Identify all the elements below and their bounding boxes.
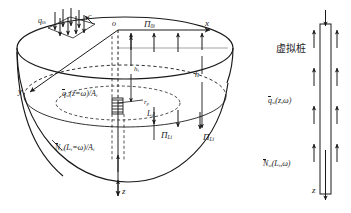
L-i-label: Li bbox=[147, 110, 153, 119]
virtual-pile-friction-arrows bbox=[314, 30, 337, 162]
N-si-left-label: Nsi(Li=ω)/Ai bbox=[55, 144, 94, 153]
pi-0i-label: Π0i bbox=[144, 20, 155, 30]
y-axis bbox=[30, 30, 118, 92]
N-si-right-label: Nsi(Li,ω) bbox=[263, 160, 290, 169]
pi-Li-label: ΠLi bbox=[161, 131, 172, 141]
origin-label: o bbox=[112, 20, 116, 28]
y-axis-label: y bbox=[18, 87, 22, 96]
q-si-left-label: qsi(z=ω)/Ai bbox=[62, 90, 97, 99]
pi-0i-upward-arrows bbox=[118, 33, 228, 52]
corner-c-label: c bbox=[88, 13, 92, 21]
diagram-canvas: q0i c o x y z Π0i ΠLi ΠLi hi h rp Li qsi… bbox=[0, 0, 351, 213]
central-pile-shaft bbox=[112, 98, 123, 114]
surface-load-label: q0i bbox=[38, 17, 46, 26]
pi-Li-label-2: ΠLi bbox=[203, 133, 214, 143]
h-label: h bbox=[195, 71, 199, 79]
virtual-pile-title: 虚拟桩 bbox=[276, 44, 306, 54]
q-si-right-label: qsi(z,ω) bbox=[268, 97, 291, 106]
z-axis-label: z bbox=[122, 187, 126, 196]
z-axis-label-right: z bbox=[312, 186, 316, 195]
soil-cylinder-walls bbox=[17, 48, 233, 176]
x-axis-label: x bbox=[205, 19, 209, 28]
h-i-label: hi bbox=[134, 66, 139, 73]
r-p-label: rp bbox=[144, 99, 149, 106]
diagram-vector-layer bbox=[0, 0, 351, 213]
pi-Li-downward-arrows bbox=[154, 107, 200, 129]
